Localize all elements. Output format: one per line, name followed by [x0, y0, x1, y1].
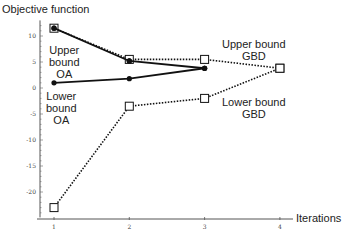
- square-marker-icon: [201, 55, 209, 63]
- x-tick-label: 1: [52, 223, 56, 230]
- y-tick-label: -10: [26, 136, 36, 143]
- y-tick-label: 10: [28, 32, 36, 39]
- annotation-upper-bound-gbd: Upper bound GBD: [222, 38, 286, 62]
- annotation-lower-bound-gbd: Lower bound GBD: [222, 96, 286, 120]
- square-marker-icon: [201, 94, 209, 102]
- dot-marker-icon: [127, 76, 132, 81]
- square-marker-icon: [125, 102, 133, 110]
- y-tick-label: -15: [26, 162, 36, 169]
- x-tick-label: 3: [203, 223, 207, 230]
- y-tick-label: -20: [26, 188, 36, 195]
- square-marker-icon: [50, 204, 58, 212]
- square-marker-icon: [276, 64, 284, 72]
- x-axis-label: Iterations: [296, 212, 341, 224]
- series-line-lower-bound-gbd: [54, 68, 280, 207]
- y-tick-label: 5: [32, 58, 36, 65]
- annotation-lower-bound-oa: Lower bound OA: [46, 90, 77, 126]
- y-tick-label: 0: [32, 84, 36, 91]
- dot-marker-icon: [51, 26, 56, 31]
- x-tick-label: 2: [127, 223, 131, 230]
- x-tick-label: 4: [278, 223, 282, 230]
- dot-marker-icon: [127, 58, 132, 63]
- dot-marker-icon: [202, 66, 207, 71]
- dot-marker-icon: [51, 80, 56, 85]
- y-axis-label: Objective function: [2, 3, 89, 15]
- y-tick-label: -5: [30, 110, 36, 117]
- annotation-upper-bound-oa: Upper bound OA: [49, 44, 80, 80]
